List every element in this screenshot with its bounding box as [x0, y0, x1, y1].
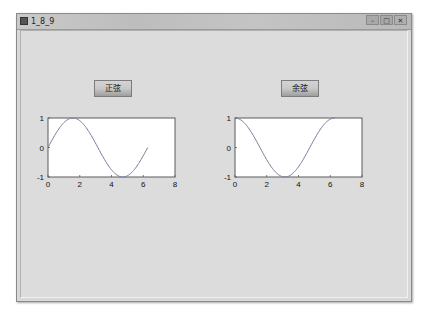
cosine-button[interactable]: 余弦 [281, 80, 319, 97]
cosine-axes: 02468-101 [217, 110, 377, 195]
y-tick-label: 0 [40, 144, 45, 153]
y-tick-label: -1 [37, 173, 45, 182]
sine-button[interactable]: 正弦 [94, 80, 132, 97]
plot-area [235, 118, 362, 177]
x-tick-label: 2 [265, 180, 270, 189]
y-tick-label: 1 [40, 114, 45, 123]
sine-plot: 02468-101 [30, 110, 190, 195]
window-controls: – □ ✕ [366, 15, 407, 25]
y-tick-label: 1 [227, 114, 232, 123]
x-tick-label: 6 [328, 180, 333, 189]
x-tick-label: 8 [173, 180, 178, 189]
minimize-button[interactable]: – [366, 15, 379, 25]
x-tick-label: 4 [296, 180, 301, 189]
window-title: 1_8_9 [31, 15, 54, 28]
x-tick-label: 0 [233, 180, 238, 189]
y-tick-label: -1 [224, 173, 232, 182]
plot-area [48, 118, 175, 177]
x-tick-label: 6 [141, 180, 146, 189]
x-tick-label: 8 [360, 180, 365, 189]
title-bar[interactable]: 1_8_9 – □ ✕ [17, 14, 411, 30]
sine-axes: 02468-101 [30, 110, 190, 195]
y-tick-label: 0 [227, 144, 232, 153]
maximize-button[interactable]: □ [380, 15, 393, 25]
x-tick-label: 4 [109, 180, 114, 189]
close-button[interactable]: ✕ [394, 15, 407, 25]
cosine-plot: 02468-101 [217, 110, 377, 195]
x-tick-label: 2 [78, 180, 83, 189]
x-tick-label: 0 [46, 180, 51, 189]
matlab-figure-icon [20, 17, 28, 25]
